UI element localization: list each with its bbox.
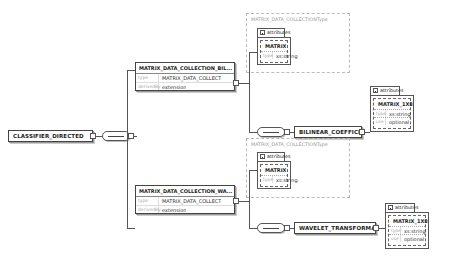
type-value: MATRIX_DATA_COLLECT: [159, 74, 221, 82]
sequence-icon: [102, 131, 130, 141]
attribute-matrix[interactable]: MATRIX type xs:string: [260, 164, 288, 187]
attributes-label: attributes: [267, 30, 290, 35]
derived-value: extension: [159, 83, 186, 90]
type-value: MATRIX_DATA_COLLECT: [159, 197, 221, 205]
attr-use-value: optional: [386, 118, 409, 125]
attr-type-key: type: [389, 227, 401, 234]
attr-type-key: type: [374, 110, 386, 117]
attr-type-key: type: [261, 176, 273, 183]
root-element-label: CLASSIFIER_DIRECTED: [13, 133, 84, 139]
collapse-icon[interactable]: [373, 88, 378, 93]
element-label: WAVELET_TRANSFORMATION: [299, 225, 376, 231]
connector: [249, 228, 257, 229]
attribute-name: MATRIX: [261, 41, 287, 51]
element-bilinear-coefficient[interactable]: BILINEAR_COEFFICIENT: [294, 126, 362, 138]
attribute-name: MATRIX_1X8: [374, 99, 410, 109]
attribute-name: MATRIX: [261, 165, 287, 175]
attr-type-value: xs:string: [401, 227, 426, 234]
element-title: MATRIX_DATA_COLLECTION_BIL...: [136, 63, 234, 74]
element-matrix-data-collection-bil[interactable]: MATRIX_DATA_COLLECTION_BIL... type MATRI…: [135, 62, 235, 91]
attributes-label: attributes: [267, 154, 290, 159]
attributes-tab[interactable]: attributes: [385, 203, 415, 212]
element-matrix-data-collection-wa[interactable]: MATRIX_DATA_COLLECTION_WA... type MATRIX…: [135, 185, 235, 214]
attributes-tab[interactable]: attributes: [370, 86, 400, 95]
collapse-icon[interactable]: [260, 30, 265, 35]
connector: [127, 70, 135, 71]
type-key: type: [136, 197, 159, 205]
attributes-label: attributes: [395, 205, 418, 210]
base-type-label: MATRIX_DATA_COLLECTIONType: [251, 17, 328, 22]
connector: [127, 228, 135, 229]
attr-type-value: xs:string: [273, 52, 298, 59]
collapse-icon[interactable]: [388, 205, 393, 210]
connector: [127, 70, 128, 228]
connector: [365, 132, 370, 133]
attribute-name: MATRIX_1X8: [389, 216, 425, 226]
attr-type-value: xs:string: [386, 110, 411, 117]
connector: [239, 201, 249, 202]
element-label: BILINEAR_COEFFICIENT: [299, 129, 362, 135]
attribute-matrix-1x8[interactable]: MATRIX_1X8 type xs:string use optional: [388, 215, 426, 246]
attributes-tab[interactable]: attributes: [257, 28, 285, 37]
attr-type-key: type: [261, 52, 273, 59]
element-title: MATRIX_DATA_COLLECTION_WA...: [136, 186, 234, 197]
base-type-label: MATRIX_DATA_COLLECTIONType: [251, 142, 328, 147]
sequence-icon: [257, 127, 285, 137]
sequence-icon: [257, 223, 285, 233]
attributes-tab[interactable]: attributes: [257, 152, 285, 161]
attribute-matrix-1x8[interactable]: MATRIX_1X8 type xs:string use optional: [373, 98, 411, 129]
derived-value: extension: [159, 206, 186, 213]
attr-use-key: use: [374, 118, 386, 125]
derived-key: derivedBy: [136, 83, 159, 90]
attr-type-value: xs:string: [273, 176, 298, 183]
type-key: type: [136, 74, 159, 82]
derived-key: derivedBy: [136, 206, 159, 213]
attribute-matrix[interactable]: MATRIX type xs:string: [260, 40, 288, 63]
root-element-classifier-directed[interactable]: CLASSIFIER_DIRECTED: [8, 130, 93, 142]
attributes-label: attributes: [380, 88, 403, 93]
attr-use-key: use: [389, 235, 401, 242]
element-wavelet-transformation[interactable]: WAVELET_TRANSFORMATION: [294, 222, 376, 234]
connector: [239, 83, 249, 84]
connector: [249, 132, 257, 133]
connector: [134, 136, 137, 137]
attr-use-value: optional: [401, 235, 424, 242]
collapse-icon[interactable]: [260, 154, 265, 159]
